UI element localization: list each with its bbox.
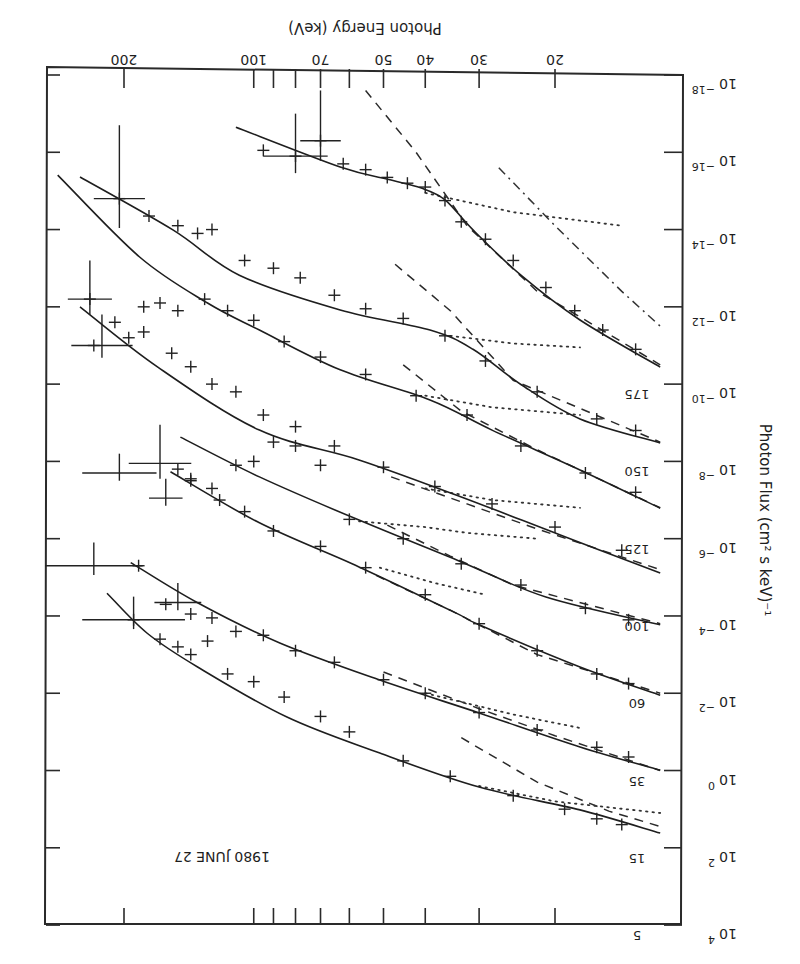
y-tick-label: 10−12 (692, 308, 737, 328)
x-tick-label: 50 (375, 52, 393, 68)
spectrum-label: 150 (625, 464, 650, 479)
x-tick-label: 200 (111, 52, 138, 68)
y-tick-label: 10−14 (692, 231, 737, 251)
spectrum-label: 100 (625, 619, 650, 634)
plot-frame (45, 67, 683, 924)
x-tick-label: 40 (416, 52, 434, 68)
spectrum-150: 150 (80, 125, 660, 479)
x-tick-label: 70 (312, 52, 330, 68)
model-fit-curve (58, 175, 661, 508)
chart-title: 1980 JUNE 27 (174, 849, 270, 865)
model-fit-curve (131, 563, 661, 771)
svg-text:10: 10 (719, 772, 737, 788)
y-tick-label: 10−16 (692, 153, 737, 173)
svg-text:10: 10 (719, 849, 737, 865)
spectrum-175: 175 (236, 90, 660, 402)
spectrum-35: 35 (82, 454, 660, 789)
thermal-component-dashed (387, 525, 660, 624)
x-tick-label: 100 (240, 52, 267, 68)
model-fit-curve (80, 177, 660, 443)
svg-text:10: 10 (719, 76, 737, 92)
y-tick-label: 10−10 (692, 385, 737, 405)
svg-text:10: 10 (719, 694, 737, 710)
thermal-component-dashed (376, 575, 660, 693)
spectrum-5: 5 (82, 593, 660, 943)
spectrum-label: 60 (629, 696, 646, 711)
y-axis-label: Photon Flux (cm² s keV)⁻¹ (756, 424, 774, 617)
spectra-series: 5153560100125150175 (45, 90, 660, 943)
y-axis-ticks: 10−1810−1610−1410−1210−1010−810−610−410−… (46, 75, 737, 946)
svg-text:−2: −2 (699, 701, 715, 714)
x-tick-label: 30 (470, 52, 488, 68)
model-fit-curve (171, 472, 661, 695)
thermal-component-dashed (384, 672, 661, 771)
svg-text:−14: −14 (692, 238, 715, 251)
spectrum-15: 15 (45, 543, 660, 866)
plot-border (45, 67, 683, 924)
svg-text:−8: −8 (699, 469, 715, 482)
spectrum-label: 175 (625, 387, 650, 402)
y-tick-label: 10−8 (699, 462, 737, 482)
svg-text:−4: −4 (699, 624, 715, 637)
svg-text:10: 10 (719, 462, 737, 478)
svg-text:−10: −10 (692, 392, 715, 405)
svg-text:10: 10 (719, 231, 737, 247)
y-tick-label: 10−6 (699, 540, 737, 560)
svg-text:−12: −12 (692, 315, 715, 328)
svg-text:−6: −6 (699, 547, 715, 560)
svg-text:−16: −16 (692, 160, 715, 173)
y-tick-label: 10−4 (699, 617, 737, 637)
svg-text:0: 0 (708, 779, 715, 792)
model-fit-curve (236, 127, 660, 367)
spectrum-label: 35 (629, 774, 646, 789)
powerlaw-component-dotted (450, 336, 580, 348)
y-tick-label: 100 (708, 772, 737, 792)
thermal-component-dashed (403, 365, 660, 508)
spectrum-label: 15 (629, 851, 646, 866)
model-fit-curve (107, 593, 660, 833)
spectrum-label: 125 (625, 542, 650, 557)
powerlaw-component-dotted (359, 521, 537, 538)
y-tick-label: 10−18 (692, 76, 737, 96)
spectrum-125: 125 (58, 175, 661, 557)
y-tick-label: 10−2 (699, 694, 737, 714)
x-tick-label: 20 (546, 52, 564, 68)
thermal-component-dashed (366, 91, 661, 365)
thermal-component-dashed (391, 477, 660, 570)
y-tick-label: 104 (708, 926, 737, 946)
svg-text:10: 10 (719, 308, 737, 324)
spectra-plot: 2030405070100200 10−1810−1610−1410−1210−… (0, 0, 800, 964)
x-axis-ticks: 2030405070100200 (111, 52, 564, 923)
svg-text:−18: −18 (692, 83, 715, 96)
svg-text:10: 10 (719, 926, 737, 942)
spectrum-label: 5 (633, 928, 641, 943)
powerlaw-component-dotted (380, 568, 486, 595)
x-axis-label: Photon Energy (keV) (288, 19, 442, 37)
svg-text:10: 10 (719, 385, 737, 401)
component-dashdot (499, 168, 660, 327)
svg-text:10: 10 (719, 617, 737, 633)
svg-text:2: 2 (708, 856, 715, 869)
svg-text:4: 4 (708, 933, 715, 946)
svg-text:10: 10 (719, 540, 737, 556)
y-tick-label: 102 (708, 849, 737, 869)
chart-container: 2030405070100200 10−1810−1610−1410−1210−… (0, 0, 800, 964)
svg-text:10: 10 (719, 153, 737, 169)
powerlaw-component-dotted (425, 693, 580, 728)
